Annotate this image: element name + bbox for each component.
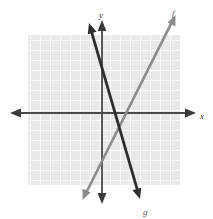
x-axis-label: x	[199, 111, 204, 121]
x-axis-left-arrowhead	[10, 109, 21, 118]
y-axis-label: y	[98, 10, 103, 20]
line-g-lower-arrowhead	[133, 188, 142, 199]
graph-figure: x y f g	[0, 0, 213, 219]
coordinate-plane-svg: x y f g	[0, 0, 213, 219]
line-g-label: g	[143, 207, 148, 217]
y-axis-top-arrowhead	[98, 20, 107, 31]
x-axis-right-arrowhead	[185, 109, 196, 118]
grid-background	[28, 35, 180, 185]
line-g-upper-arrowhead	[88, 23, 97, 34]
y-axis-bottom-arrowhead	[98, 193, 107, 204]
